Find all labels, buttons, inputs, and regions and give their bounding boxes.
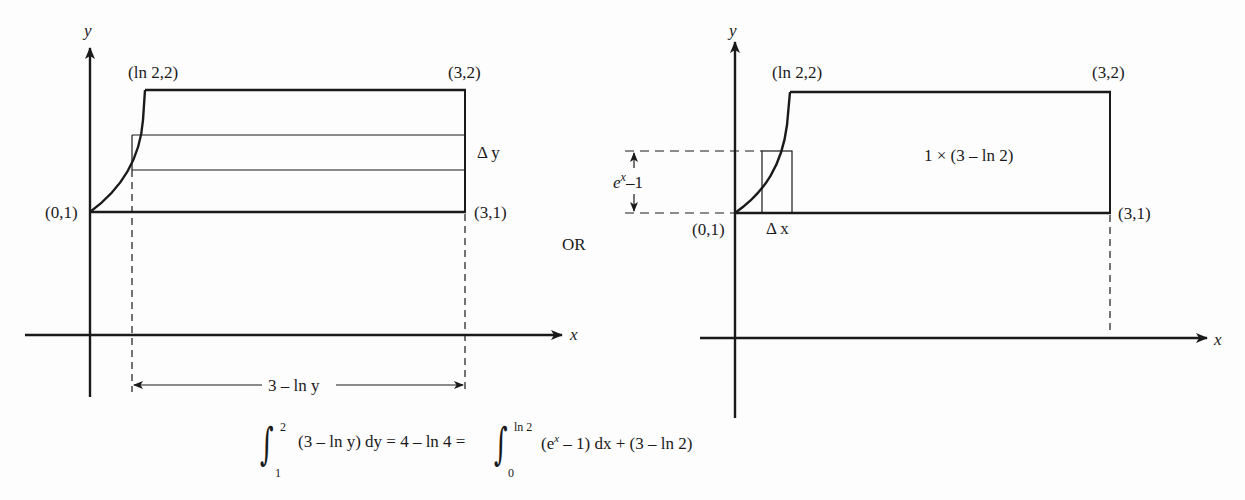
left-y-axis-label: y: [82, 21, 92, 40]
right-y-axis-label: y: [727, 21, 737, 40]
right-point-bottom-left: (0,1): [692, 220, 725, 239]
left-point-top-left: (ln 2,2): [128, 63, 178, 82]
left-diagram: y x 3 – ln y (ln 2,2) (3,2) (0,1) (3,1) …: [25, 21, 578, 397]
left-width-label: 3 – ln y: [268, 376, 320, 395]
left-strip-label: Δ y: [477, 143, 500, 162]
right-strip-label: Δ x: [766, 219, 789, 238]
integral-1-upper-limit: 2: [280, 420, 286, 435]
right-diagram: y x ex–1 (ln 2,2) (3,2) (0,1) (3,1) Δ x …: [613, 21, 1222, 418]
integral-sign-1: ∫: [260, 422, 274, 466]
integral-2-upper-limit: ln 2: [514, 420, 532, 435]
area-formula: ∫ 2 1 (3 – ln y) dy = 4 – ln 4 = ∫ ln 2 …: [258, 418, 778, 488]
integral-1-body: (3 – ln y) dy = 4 – ln 4 =: [298, 432, 465, 452]
right-rectangle-label: 1 × (3 – ln 2): [924, 146, 1013, 165]
integral-2-body: (ex – 1) dx + (3 – ln 2): [541, 432, 692, 454]
left-curve-x-equals-ln-y: [90, 90, 145, 212]
right-x-axis-label: x: [1213, 330, 1222, 349]
right-point-bottom-right: (3,1): [1118, 204, 1151, 223]
left-point-bottom-left: (0,1): [45, 203, 78, 222]
left-point-bottom-right: (3,1): [474, 203, 507, 222]
left-point-top-right: (3,2): [448, 63, 481, 82]
integral-sign-2: ∫: [494, 422, 508, 466]
left-x-axis-label: x: [569, 325, 578, 344]
right-point-top-right: (3,2): [1092, 63, 1125, 82]
right-point-top-left: (ln 2,2): [772, 63, 822, 82]
integral-2-lower-limit: 0: [508, 466, 514, 481]
right-height-label: ex–1: [613, 170, 643, 192]
or-separator: OR: [562, 235, 586, 254]
integral-1-lower-limit: 1: [275, 466, 281, 481]
